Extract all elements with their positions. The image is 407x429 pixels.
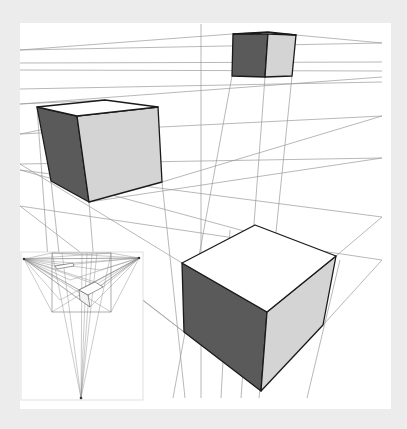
perspective-diagram bbox=[0, 0, 407, 429]
right-vanishing-point bbox=[138, 257, 141, 260]
left-vanishing-point bbox=[23, 258, 26, 261]
cube-dark-face bbox=[232, 33, 268, 77]
top-small-cube bbox=[232, 32, 296, 77]
bottom-vanishing-point bbox=[80, 397, 83, 400]
inset-thumbnail-diagram bbox=[21, 252, 143, 400]
cube-light-face bbox=[265, 33, 296, 77]
